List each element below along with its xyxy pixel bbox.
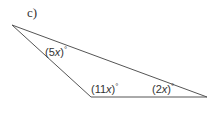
part-label: c) xyxy=(27,5,37,20)
angle-label-bottom-right: (2x)° xyxy=(152,82,174,95)
angle-label-top-left: (5x)° xyxy=(45,45,67,58)
triangle-diagram: c) (5x)° (11x)° (2x)° xyxy=(0,0,218,119)
angle-label-bottom-middle: (11x)° xyxy=(91,82,118,95)
